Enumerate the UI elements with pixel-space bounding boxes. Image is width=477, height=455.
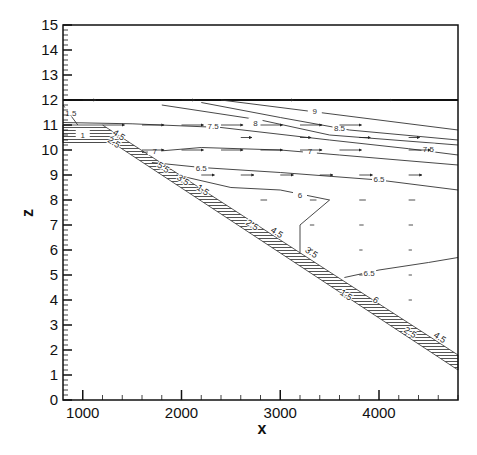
y-tick-label: 3	[50, 316, 58, 333]
contour-label: 7.5	[208, 122, 220, 131]
contour-line	[201, 103, 458, 141]
y-tick-label: 13	[41, 66, 58, 83]
y-tick-label: 4	[50, 291, 58, 308]
contour-label: 7.5	[423, 145, 435, 154]
plot-area: 98.587.57.5776.56.566.51.514.52.55.53.51…	[63, 100, 458, 370]
y-tick-label: 15	[41, 16, 58, 33]
y-tick-label: 10	[41, 141, 58, 158]
plot-frame	[63, 25, 458, 400]
contour-label: 6.5	[373, 175, 385, 184]
bed-hatched-band	[63, 125, 458, 370]
y-tick-label: 12	[41, 91, 58, 108]
y-tick-label: 5	[50, 266, 58, 283]
y-tick-label: 9	[50, 166, 58, 183]
x-tick-label: 2000	[165, 404, 198, 421]
contour-label: 6.5	[196, 164, 208, 173]
x-axis-label: x	[258, 420, 267, 437]
y-tick-label: 6	[50, 241, 58, 258]
y-tick-label: 0	[50, 391, 58, 408]
contour-chart: 98.587.57.5776.56.566.51.514.52.55.53.51…	[0, 0, 477, 455]
contour-label: 7	[308, 147, 313, 156]
y-axis-label: z	[19, 209, 36, 217]
y-tick-label: 7	[50, 216, 58, 233]
contour-label: 6	[298, 191, 303, 200]
y-tick-label: 2	[50, 341, 58, 358]
y-tick-label: 8	[50, 191, 58, 208]
contour-line	[344, 258, 458, 278]
contour-label: 7	[153, 147, 158, 156]
y-tick-label: 11	[42, 116, 58, 133]
x-tick-label: 1000	[66, 404, 99, 421]
contour-label: 9	[313, 107, 318, 116]
contour-label: 8	[253, 119, 258, 128]
contour-label: 6.5	[364, 269, 376, 278]
y-tick-label: 14	[41, 41, 58, 58]
x-tick-label: 4000	[362, 404, 395, 421]
x-tick-label: 3000	[264, 404, 297, 421]
contour-label: 1	[81, 131, 86, 140]
y-tick-label: 1	[50, 366, 58, 383]
